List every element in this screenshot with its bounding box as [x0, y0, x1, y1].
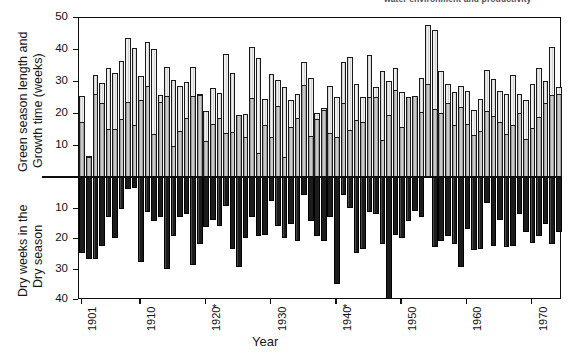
x-tick-mark-1930: [270, 299, 271, 304]
bar-growth-time-1938: [321, 110, 327, 177]
bar-growth-time-1961: [471, 135, 477, 177]
bar-dry-weeks-1971: [536, 177, 542, 236]
bar-growth-time-1937: [314, 119, 320, 177]
bar-dry-weeks-1911: [145, 177, 151, 212]
bar-growth-time-1909: [132, 125, 138, 177]
x-tick-mark-1910: [139, 299, 140, 304]
bar-dry-weeks-1902: [86, 177, 92, 259]
bar-dry-weeks-1972: [543, 177, 549, 224]
bar-growth-time-1944: [360, 122, 366, 177]
bar-growth-time-1957: [445, 103, 451, 177]
bar-dry-weeks-1949: [393, 177, 399, 235]
bar-growth-time-1919: [197, 95, 203, 177]
y-tick-upper-40: 40: [42, 42, 68, 54]
bar-dry-weeks-1926: [243, 177, 249, 238]
bar-growth-time-1928: [256, 153, 262, 177]
bar-growth-time-1950: [399, 127, 405, 177]
bar-dry-weeks-1907: [119, 177, 125, 209]
bar-growth-time-1933: [288, 127, 294, 177]
bar-dry-weeks-1958: [452, 177, 458, 244]
bar-dry-weeks-1937: [314, 177, 320, 236]
bar-dry-weeks-1953: [419, 177, 425, 217]
bar-dry-weeks-1955: [432, 177, 438, 247]
bar-growth-time-1956: [438, 113, 444, 177]
bar-dry-weeks-1947: [380, 177, 386, 244]
figure-root: water environment and productivity Green…: [0, 0, 572, 354]
bar-growth-time-1908: [125, 102, 131, 177]
bar-growth-time-1901: [79, 122, 85, 177]
bar-dry-weeks-1946: [373, 177, 379, 214]
bar-growth-time-1910: [138, 100, 144, 177]
bar-growth-time-1945: [367, 97, 373, 177]
bar-dry-weeks-1966: [504, 177, 510, 247]
bar-dry-weeks-1906: [112, 177, 118, 238]
lower-bars-layer: [79, 177, 560, 298]
x-tick-label-1960: 1960: [471, 307, 483, 331]
bar-growth-time-1924: [230, 132, 236, 177]
bar-growth-time-1955: [432, 109, 438, 177]
bar-growth-time-1917: [184, 118, 190, 177]
x-tick-asterisk-1940: *: [343, 303, 347, 314]
bar-growth-time-1905: [106, 129, 112, 177]
bar-dry-weeks-1923: [223, 177, 229, 206]
bar-growth-time-1953: [419, 112, 425, 177]
bar-dry-weeks-1960: [465, 177, 471, 229]
bar-dry-weeks-1905: [106, 177, 112, 217]
bar-growth-time-1929: [262, 125, 268, 177]
bar-dry-weeks-1913: [158, 177, 164, 217]
bar-dry-weeks-1910: [138, 177, 144, 262]
bar-dry-weeks-1943: [354, 177, 360, 253]
upper-plot-area: [78, 17, 561, 177]
bar-growth-time-1912: [151, 134, 157, 177]
bar-dry-weeks-1915: [171, 177, 177, 236]
y-tick-lower-10: 10: [42, 201, 68, 213]
bar-growth-time-1927: [249, 98, 255, 177]
bar-growth-time-1936: [308, 136, 314, 177]
bar-dry-weeks-1912: [151, 177, 157, 221]
bar-growth-time-1946: [373, 97, 379, 177]
bar-growth-time-1967: [510, 125, 516, 177]
bar-growth-time-1934: [295, 118, 301, 177]
bar-dry-weeks-1948: [386, 177, 392, 299]
bar-dry-weeks-1934: [295, 177, 301, 241]
x-tick-mark-1920: [205, 299, 206, 304]
bar-dry-weeks-1917: [184, 177, 190, 214]
x-tick-label-1910: 1910: [145, 307, 157, 331]
x-tick-label-1950: 1950: [406, 307, 418, 331]
x-tick-mark-1960: [466, 299, 467, 304]
bar-dry-weeks-1935: [301, 177, 307, 195]
x-tick-mark-1970: [531, 299, 532, 304]
y-tick-upper-10: 10: [42, 138, 68, 150]
bar-growth-time-1963: [484, 111, 490, 177]
bar-growth-time-1952: [412, 96, 418, 177]
bar-dry-weeks-1952: [412, 177, 418, 211]
bar-dry-weeks-1962: [478, 177, 484, 249]
bar-dry-weeks-1974: [556, 177, 562, 232]
bar-dry-weeks-1944: [360, 177, 366, 249]
y-tick-upper-50: 50: [42, 10, 68, 22]
bar-growth-time-1968: [517, 113, 523, 177]
bar-growth-time-1970: [530, 128, 536, 177]
x-tick-label-1930: 1930: [276, 307, 288, 331]
bar-growth-time-1962: [478, 131, 484, 177]
bar-dry-weeks-1963: [484, 177, 490, 203]
bar-growth-time-1932: [282, 157, 288, 177]
bar-dry-weeks-1901: [79, 177, 85, 253]
x-tick-label-1970: 1970: [537, 307, 549, 331]
bar-dry-weeks-1965: [497, 177, 503, 220]
bar-dry-weeks-1938: [321, 177, 327, 241]
bar-dry-weeks-1951: [406, 177, 412, 221]
bar-growth-time-1958: [452, 125, 458, 177]
bar-dry-weeks-1909: [132, 177, 138, 188]
bar-growth-time-1920: [203, 141, 209, 177]
bar-dry-weeks-1961: [471, 177, 477, 250]
bar-dry-weeks-1929: [262, 177, 268, 235]
bar-growth-time-1966: [504, 134, 510, 177]
bar-dry-weeks-1941: [341, 177, 347, 195]
bar-growth-time-1911: [145, 86, 151, 177]
bar-dry-weeks-1927: [249, 177, 255, 217]
bar-dry-weeks-1922: [217, 177, 223, 226]
bar-growth-time-1943: [354, 120, 360, 177]
x-axis-title: Year: [252, 334, 278, 349]
bar-growth-time-1915: [171, 146, 177, 177]
